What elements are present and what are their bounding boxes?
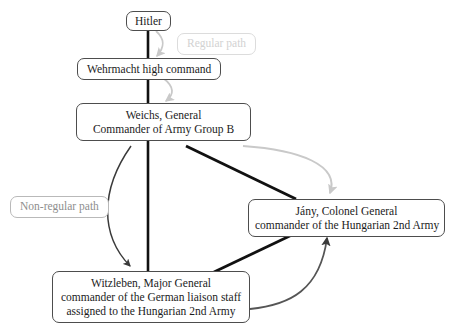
node-weichs-title: Weichs, General xyxy=(83,108,244,122)
node-witzleben-role: commander of the German liaison staff xyxy=(59,290,243,304)
legend-regular-path: Regular path xyxy=(177,33,256,55)
node-witzleben-assignment: assigned to the Hungarian 2nd Army xyxy=(59,304,243,318)
legend-non-regular-path: Non-regular path xyxy=(10,196,109,218)
legend-regular-path-label: Regular path xyxy=(187,37,246,49)
node-weichs-role: Commander of Army Group B xyxy=(83,122,244,136)
node-jany-title: Jány, Colonel General xyxy=(255,204,438,218)
node-witzleben-title: Witzleben, Major General xyxy=(59,276,243,290)
legend-non-regular-path-label: Non-regular path xyxy=(20,200,99,212)
diagram-canvas: Hitler Wehrmacht high command Weichs, Ge… xyxy=(0,0,454,336)
edge-regular-wehrmacht-weichs xyxy=(163,78,172,101)
node-wehrmacht-high-command[interactable]: Wehrmacht high command xyxy=(77,58,221,80)
edge-nonregular-weichs-witzleben xyxy=(108,146,131,266)
node-witzleben[interactable]: Witzleben, Major General commander of th… xyxy=(52,271,250,323)
node-wehrmacht-label: Wehrmacht high command xyxy=(87,62,211,76)
edge-regular-weichs-jany xyxy=(243,146,332,193)
node-jany-role: commander of the Hungarian 2nd Army xyxy=(255,218,438,232)
edge-regular-hitler-wehrmacht xyxy=(156,31,163,56)
node-hitler[interactable]: Hitler xyxy=(126,11,171,31)
node-hitler-label: Hitler xyxy=(135,14,162,28)
edge-nonregular-jany-witzleben-line xyxy=(214,233,296,272)
node-jany[interactable]: Jány, Colonel General commander of the H… xyxy=(248,199,445,237)
node-weichs[interactable]: Weichs, General Commander of Army Group … xyxy=(76,103,251,141)
edge-nonregular-weichs-jany-line xyxy=(186,146,296,199)
